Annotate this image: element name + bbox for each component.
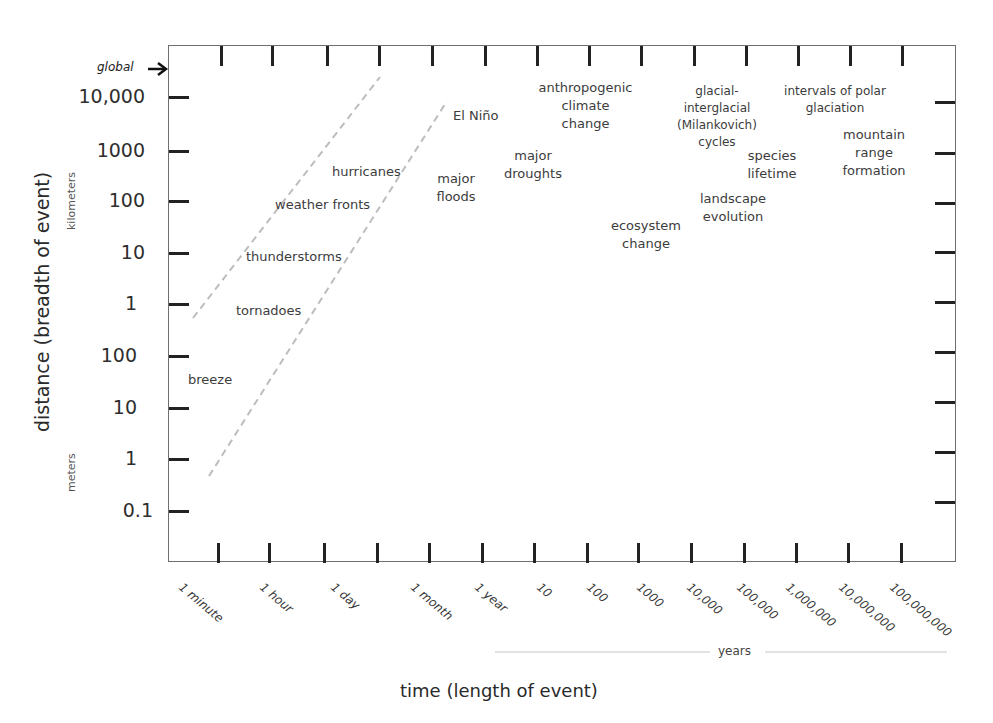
event-species-lifetime: species lifetime bbox=[745, 147, 799, 183]
y-axis-title: distance (breadth of event) bbox=[31, 172, 53, 432]
event-ecosystem-change: ecosystem change bbox=[610, 217, 682, 253]
event-major-floods: major floods bbox=[434, 170, 478, 206]
y-tick-label: 0.1 bbox=[33, 499, 153, 521]
event-breeze: breeze bbox=[188, 371, 232, 389]
y-tick-label: 10,000 bbox=[25, 85, 145, 107]
event-major-droughts: major droughts bbox=[503, 147, 563, 183]
kilometers-unit-label: kilometers bbox=[65, 172, 78, 230]
y-tick-label: 1000 bbox=[25, 139, 145, 161]
global-arrow-icon bbox=[148, 63, 166, 75]
dashed-guide-line-lower bbox=[209, 101, 447, 476]
x-axis-title: time (length of event) bbox=[400, 680, 598, 701]
event-hurricanes: hurricanes bbox=[332, 163, 401, 181]
event-intervals-of-polar-glaciation: intervals of polar glaciation bbox=[782, 83, 888, 117]
event-anthropogenic-climate-change: anthropogenic climate change bbox=[533, 79, 638, 133]
years-label: years bbox=[718, 644, 751, 658]
event-landscape-evolution: landscape evolution bbox=[698, 190, 768, 226]
meters-unit-label: meters bbox=[65, 453, 78, 492]
event-mountain-range-formation: mountain range formation bbox=[836, 126, 912, 180]
event-weather-fronts: weather fronts bbox=[275, 196, 370, 214]
event-glacial-interglacial-cycles: glacial- interglacial (Milankovich) cycl… bbox=[673, 83, 761, 151]
global-label: global bbox=[97, 60, 134, 74]
event-el-nino: El Niño bbox=[453, 107, 499, 125]
event-tornadoes: tornadoes bbox=[236, 302, 301, 320]
event-thunderstorms: thunderstorms bbox=[246, 248, 342, 266]
